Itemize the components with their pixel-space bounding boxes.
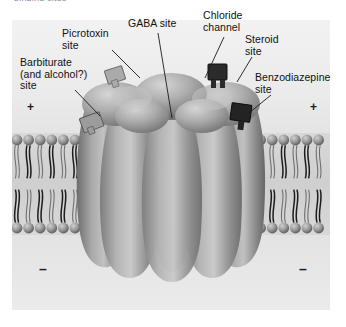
- figure-root: binding sites: [0, 0, 346, 327]
- charge-left-minus: –: [39, 262, 47, 276]
- label-chloride: Chloride channel: [203, 10, 243, 33]
- label-gaba: GABA site: [128, 18, 176, 30]
- charge-right-plus: +: [310, 101, 317, 113]
- charge-left-plus: +: [27, 101, 34, 113]
- label-steroid: Steroid site: [245, 34, 279, 57]
- cropped-caption-text: binding sites: [14, 0, 67, 1]
- label-barbiturate: Barbiturate (and alcohol?) site: [20, 57, 87, 92]
- label-benzodiazepine: Benzodiazepine site: [255, 72, 330, 95]
- receptor-subunit-front-center: [142, 120, 202, 282]
- label-picrotoxin: Picrotoxin site: [62, 28, 109, 51]
- charge-right-minus: –: [299, 262, 307, 276]
